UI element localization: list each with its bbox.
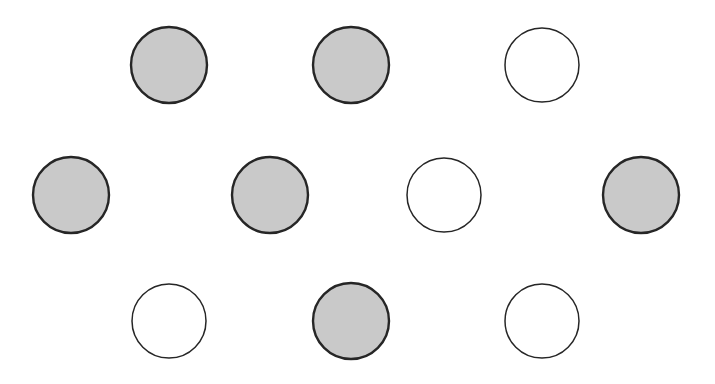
circle-unfilled xyxy=(505,284,579,358)
circle-unfilled xyxy=(407,158,481,232)
circle-filled xyxy=(313,283,389,359)
circle-array-figure xyxy=(0,0,715,384)
circle-filled xyxy=(313,27,389,103)
circle-filled xyxy=(131,27,207,103)
circle-filled xyxy=(33,157,109,233)
circle-unfilled xyxy=(505,28,579,102)
circle-unfilled xyxy=(132,284,206,358)
circle-filled xyxy=(232,157,308,233)
figure-canvas xyxy=(0,0,715,384)
circle-filled xyxy=(603,157,679,233)
